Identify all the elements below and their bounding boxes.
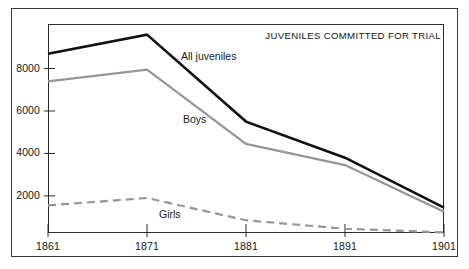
- series-line-all-juveniles: [48, 35, 444, 208]
- y-axis-tick-label: 8000: [4, 62, 40, 74]
- series-label-girls: Girls: [159, 208, 181, 220]
- chart-title: JUVENILES COMMITTED FOR TRIAL: [265, 30, 441, 41]
- series-line-boys: [48, 70, 444, 212]
- y-axis-tick-label: 4000: [4, 146, 40, 158]
- x-axis-tick-label: 1901: [422, 240, 466, 252]
- series-label-all-juveniles: All juveniles: [181, 50, 236, 62]
- y-axis-tick-label: 2000: [4, 189, 40, 201]
- chart-figure: 2000 4000 6000 8000 1861 1871 1881 1891 …: [0, 0, 469, 269]
- y-axis-tick-label: 6000: [4, 104, 40, 116]
- x-axis-tick-label: 1891: [323, 240, 367, 252]
- y-axis-tick-marks: [44, 69, 55, 196]
- series-lines: [48, 35, 444, 233]
- series-label-boys: Boys: [183, 113, 206, 125]
- x-axis-tick-label: 1871: [125, 240, 169, 252]
- x-axis-tick-label: 1861: [26, 240, 70, 252]
- x-axis-tick-label: 1881: [224, 240, 268, 252]
